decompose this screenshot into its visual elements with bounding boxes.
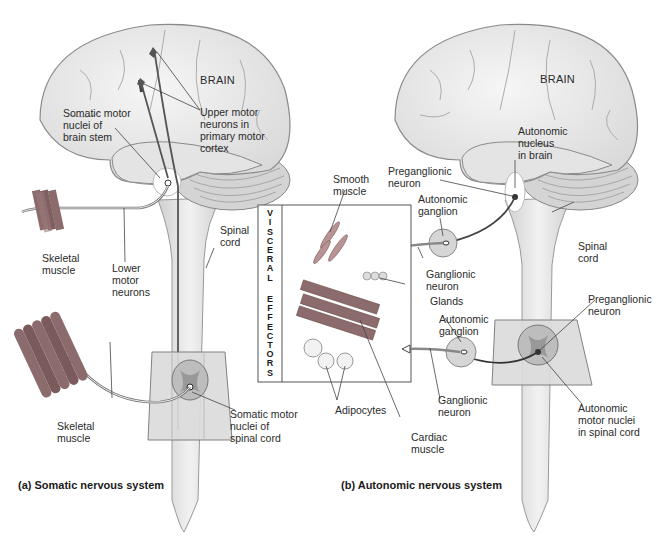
label-autonomic-motor-nuclei-spinal-cord: Autonomic motor nuclei in spinal cord: [578, 402, 640, 438]
label-upper-motor-neurons: Upper motor neurons in primary motor cor…: [200, 106, 265, 154]
label-cardiac-muscle: Cardiac muscle: [411, 431, 447, 455]
label-somatic-motor-nuclei-brain-stem: Somatic motor nuclei of brain stem: [63, 107, 131, 143]
label-brain-b: BRAIN: [540, 73, 575, 85]
visceral-effectors-title: V I S C E R A L E F F E C T O R S: [258, 205, 282, 382]
label-brain-a: BRAIN: [200, 74, 235, 86]
skeletal-muscle-bottom: [12, 310, 89, 399]
label-autonomic-ganglion-bottom: Autonomic ganglion: [439, 313, 489, 337]
label-adipocytes: Adipocytes: [335, 404, 386, 416]
label-glands: Glands: [430, 295, 463, 307]
label-preganglionic-neuron-top: Preganglionic neuron: [388, 165, 452, 189]
label-ganglionic-neuron-bottom: Ganglionic neuron: [438, 394, 488, 418]
label-skeletal-muscle-top: Skeletal muscle: [42, 252, 79, 276]
caption-panel-a: (a) Somatic nervous system: [18, 479, 164, 491]
panel-a-somatic: [12, 24, 290, 532]
label-preganglionic-neuron-bottom: Preganglionic neuron: [588, 293, 652, 317]
vtitle-letter: S: [267, 369, 273, 378]
label-lower-motor-neurons: Lower motor neurons: [112, 262, 150, 298]
label-autonomic-nucleus-brain: Autonomic nucleus in brain: [518, 125, 568, 161]
label-ganglionic-neuron-top: Ganglionic neuron: [426, 268, 476, 292]
vtitle-letter: L: [267, 274, 273, 283]
label-skeletal-muscle-bottom: Skeletal muscle: [57, 420, 94, 444]
label-spinal-cord-a: Spinal cord: [220, 224, 249, 248]
label-autonomic-ganglion-top: Autonomic ganglion: [418, 193, 468, 217]
label-smooth-muscle: Smooth muscle: [333, 173, 369, 197]
label-somatic-motor-nuclei-spinal-cord: Somatic motor nuclei of spinal cord: [230, 408, 298, 444]
label-spinal-cord-b: Spinal cord: [578, 240, 607, 264]
caption-panel-b: (b) Autonomic nervous system: [341, 479, 502, 491]
skeletal-muscle-top: [32, 190, 64, 233]
